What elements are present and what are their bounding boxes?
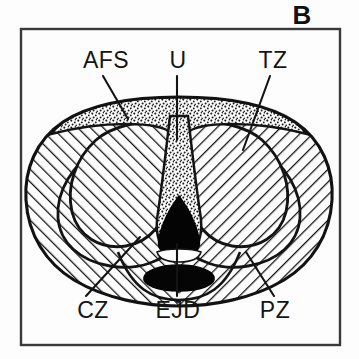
label-ejd: EJD xyxy=(156,297,201,323)
figure-root: B xyxy=(0,0,359,359)
zone-ejd xyxy=(144,265,214,291)
label-u: U xyxy=(169,47,186,73)
label-cz: CZ xyxy=(77,297,109,323)
panel-letter: B xyxy=(293,0,312,30)
zone-ejd-lens xyxy=(144,265,214,291)
prostate-zonal-anatomy-diagram: B xyxy=(0,0,359,359)
label-pz: PZ xyxy=(260,297,290,323)
verumontanum-slit xyxy=(157,249,201,262)
label-afs: AFS xyxy=(83,47,129,73)
label-tz: TZ xyxy=(258,47,287,73)
